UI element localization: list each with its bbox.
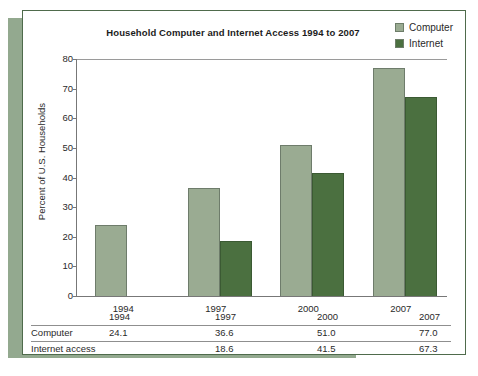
- table-cell-computer-1994: 24.1: [109, 325, 169, 341]
- y-tick-mark-70: [73, 89, 77, 90]
- y-tick-label-70: 70: [49, 83, 73, 94]
- table-row-internet: Internet access 18.6 41.5 67.3: [31, 341, 459, 357]
- bar-group-1994: [95, 225, 159, 296]
- y-tick-mark-40: [73, 178, 77, 179]
- y-tick-label-30: 30: [49, 201, 73, 212]
- y-tick-label-40: 40: [49, 172, 73, 183]
- plot-area: 80706050403020100 1994199720002007: [76, 59, 447, 297]
- table-cell-internet-2000: 41.5: [317, 341, 377, 357]
- frame-shadow-left: [8, 18, 22, 358]
- y-tick-mark-30: [73, 207, 77, 208]
- bar-internet-2007: [405, 97, 437, 296]
- y-tick-mark-60: [73, 118, 77, 119]
- table-cell-internet-2007: 67.3: [419, 341, 478, 357]
- y-tick-mark-20: [73, 237, 77, 238]
- chart-card: Household Computer and Internet Access 1…: [22, 10, 466, 355]
- figure-frame: Household Computer and Internet Access 1…: [0, 0, 478, 376]
- table-header-2007: 2007: [419, 309, 478, 325]
- y-tick-mark-80: [73, 59, 77, 60]
- y-tick-label-10: 10: [49, 260, 73, 271]
- y-tick-label-80: 80: [49, 53, 73, 64]
- bar-group-2007: [373, 68, 437, 296]
- plot-top-rule: [77, 59, 447, 60]
- bar-group-2000: [280, 145, 344, 296]
- bar-internet-2000: [312, 173, 344, 296]
- table-header-1994: 1994: [109, 309, 169, 325]
- table-header-row: 1994 1997 2000 2007: [31, 309, 459, 325]
- y-tick-mark-50: [73, 148, 77, 149]
- y-tick-mark-0: [73, 296, 77, 297]
- table-header-1997: 1997: [215, 309, 275, 325]
- table-cell-computer-2000: 51.0: [317, 325, 377, 341]
- y-tick-label-60: 60: [49, 112, 73, 123]
- table-row-computer: Computer 24.1 36.6 51.0 77.0: [31, 325, 459, 341]
- bar-computer-2000: [280, 145, 312, 296]
- table-cell-internet-1997: 18.6: [215, 341, 275, 357]
- bar-computer-1997: [188, 188, 220, 296]
- y-tick-label-20: 20: [49, 231, 73, 242]
- bar-internet-1997: [220, 241, 252, 296]
- table-cell-computer-1997: 36.6: [215, 325, 275, 341]
- y-tick-label-0: 0: [49, 290, 73, 301]
- table-rule-top: [31, 325, 451, 326]
- table-header-2000: 2000: [317, 309, 377, 325]
- bar-computer-2007: [373, 68, 405, 296]
- bar-group-1997: [188, 188, 252, 296]
- y-tick-mark-10: [73, 266, 77, 267]
- y-axis-title: Percent of U.S. Households: [36, 82, 47, 242]
- table-rowlabel-computer: Computer: [31, 325, 109, 341]
- table-rowlabel-internet: Internet access: [31, 341, 109, 357]
- y-tick-label-50: 50: [49, 142, 73, 153]
- table-cell-computer-2007: 77.0: [419, 325, 478, 341]
- bar-computer-1994: [95, 225, 127, 296]
- data-table: 1994 1997 2000 2007 Computer 24.1 36.6 5…: [31, 309, 459, 357]
- plot-wrapper: Percent of U.S. Households 8070605040302…: [23, 11, 467, 356]
